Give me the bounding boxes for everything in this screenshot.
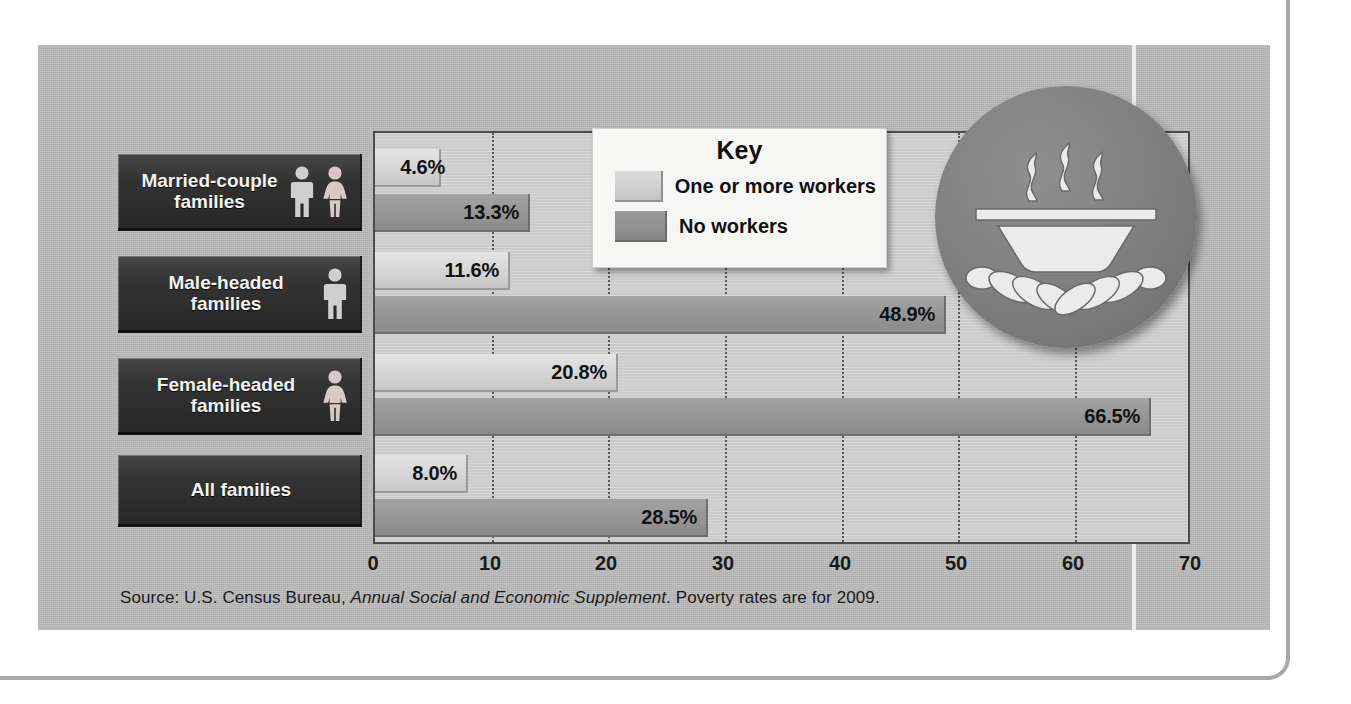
man-icon	[320, 267, 350, 319]
legend-key-box: Key One or more workers No workers	[592, 128, 887, 268]
category-label-text: All families	[132, 479, 350, 500]
category-icons	[287, 165, 350, 217]
x-tick-60: 60	[1062, 552, 1084, 575]
legend-swatch-light	[615, 171, 663, 202]
source-note: Source: U.S. Census Bureau, Annual Socia…	[120, 588, 880, 608]
bar-male-headed-no-workers: 48.9%	[375, 296, 946, 334]
man-icon	[287, 165, 317, 217]
bar-value-label: 13.3%	[463, 201, 519, 224]
category-icons	[320, 369, 350, 421]
x-tick-20: 20	[595, 552, 617, 575]
x-axis: 0 10 20 30 40 50 60 70	[373, 552, 1190, 582]
bar-female-headed-no-workers: 66.5%	[375, 398, 1151, 436]
x-tick-30: 30	[712, 552, 734, 575]
legend-item-no-workers: No workers	[615, 211, 876, 242]
x-tick-40: 40	[829, 552, 851, 575]
bar-married-couple-no-workers: 13.3%	[375, 194, 530, 232]
source-suffix: . Poverty rates are for 2009.	[666, 588, 880, 607]
x-tick-0: 0	[367, 552, 378, 575]
legend-title: Key	[603, 136, 876, 165]
x-tick-10: 10	[479, 552, 501, 575]
bar-female-headed-one-or-more-workers: 20.8%	[375, 354, 618, 392]
category-label-text: Male-headed families	[132, 272, 320, 315]
bar-value-label: 11.6%	[444, 259, 499, 282]
legend-item-label: One or more workers	[675, 175, 876, 198]
bar-value-label: 8.0%	[412, 462, 457, 485]
woman-icon	[320, 165, 350, 217]
category-label-all-families: All families	[118, 455, 362, 527]
bar-value-label: 20.8%	[551, 361, 607, 384]
legend-swatch-dark	[615, 211, 667, 242]
steaming-bowl-in-hands-icon	[935, 86, 1197, 348]
legend-item-one-or-more-workers: One or more workers	[615, 171, 876, 202]
legend-item-label: No workers	[679, 215, 788, 238]
source-prefix: Source: U.S. Census Bureau,	[120, 588, 351, 607]
category-icons	[320, 267, 350, 319]
x-tick-50: 50	[945, 552, 967, 575]
bar-married-couple-one-or-more-workers: 4.6%	[375, 149, 441, 187]
bar-value-label: 48.9%	[879, 303, 935, 326]
bar-value-label: 4.6%	[400, 156, 445, 179]
category-label-text: Married-couple families	[132, 170, 287, 213]
source-italic-title: Annual Social and Economic Supplement	[351, 588, 667, 607]
bar-all-families-no-workers: 28.5%	[375, 499, 708, 537]
category-label-male-headed-families: Male-headed families	[118, 256, 362, 333]
bar-value-label: 66.5%	[1084, 405, 1140, 428]
bar-male-headed-one-or-more-workers: 11.6%	[375, 252, 510, 290]
category-label-married-couple-families: Married-couple families	[118, 154, 362, 231]
x-tick-70: 70	[1179, 552, 1201, 575]
bar-all-families-one-or-more-workers: 8.0%	[375, 455, 468, 493]
category-label-text: Female-headed families	[132, 374, 320, 417]
category-label-female-headed-families: Female-headed families	[118, 358, 362, 435]
bar-value-label: 28.5%	[641, 506, 697, 529]
food-assistance-glyph	[935, 86, 1197, 348]
woman-icon	[320, 369, 350, 421]
